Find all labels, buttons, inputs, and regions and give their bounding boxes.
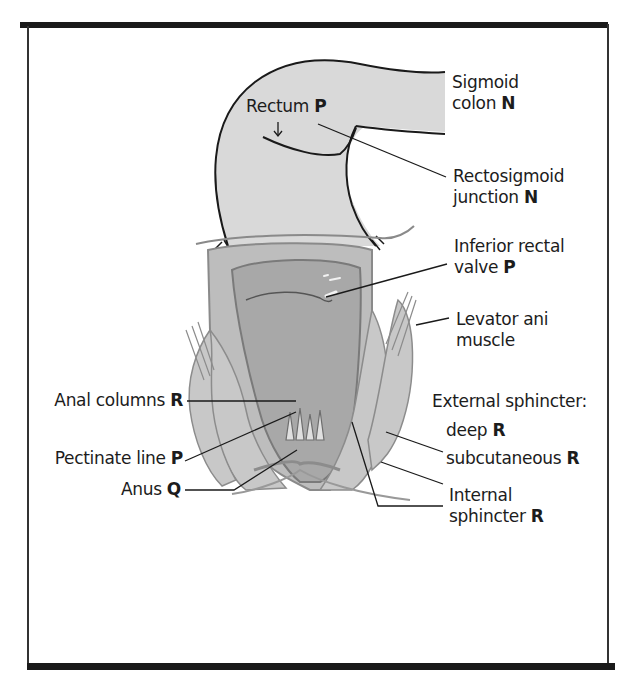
label-line: muscle (456, 330, 548, 351)
label-line: sphincter (449, 506, 526, 526)
label-external-sphincter: External sphincter: (432, 391, 587, 412)
label-anal-columns: Anal columns R (40, 390, 183, 411)
leader-levator-ani (416, 318, 449, 325)
label-code: R (170, 390, 183, 410)
label-line: junction (453, 187, 519, 207)
label-code: N (524, 187, 538, 207)
label-code: P (171, 448, 183, 468)
label-code: R (566, 448, 579, 468)
label-internal-sphincter: Internal sphincter R (449, 485, 544, 527)
label-code: R (492, 420, 505, 440)
label-rectum: Rectum P (246, 96, 326, 117)
label-text: Rectum (246, 96, 309, 116)
label-line: Levator ani (456, 309, 548, 330)
leader-subcutaneous (381, 462, 443, 484)
label-code: P (503, 257, 515, 277)
label-inferior-rectal-valve: Inferior rectal valve P (454, 236, 564, 278)
label-text: External sphincter: (432, 391, 587, 411)
label-code: P (314, 96, 326, 116)
label-levator-ani: Levator ani muscle (456, 309, 548, 351)
label-line: Inferior rectal (454, 236, 564, 257)
label-line: Internal (449, 485, 544, 506)
label-line: valve (454, 257, 498, 277)
label-text: Anal columns (54, 390, 165, 410)
label-text: Anus (121, 479, 162, 499)
label-text: deep (446, 420, 487, 440)
label-line: Rectosigmoid (453, 166, 564, 187)
label-external-sphincter-subcutaneous: subcutaneous R (446, 448, 579, 469)
label-code: Q (167, 479, 181, 499)
label-line: colon (452, 93, 496, 113)
sigmoid-colon-shape (214, 60, 445, 250)
label-external-sphincter-deep: deep R (446, 420, 505, 441)
label-line: Sigmoid (452, 72, 519, 93)
label-text: Pectinate line (55, 448, 166, 468)
label-pectinate-line: Pectinate line P (40, 448, 183, 469)
label-code: N (501, 93, 515, 113)
label-anus: Anus Q (80, 479, 181, 500)
label-text: subcutaneous (446, 448, 561, 468)
label-code: R (531, 506, 544, 526)
label-rectosigmoid-junction: Rectosigmoid junction N (453, 166, 564, 208)
label-sigmoid-colon: Sigmoid colon N (452, 72, 519, 114)
